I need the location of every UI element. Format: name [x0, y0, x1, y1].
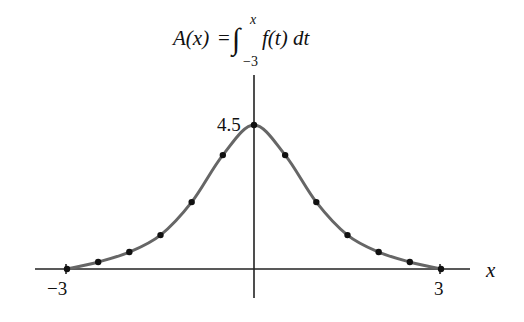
data-point [282, 152, 288, 158]
data-point [126, 249, 132, 255]
x-tick-label-3: 3 [434, 278, 444, 299]
data-point [251, 122, 257, 128]
data-point [188, 199, 194, 205]
title-lhs: A(x) [171, 26, 209, 50]
data-point [157, 232, 163, 238]
chart: A(x) = ∫ x −3 f(t) dt 4.5 −3 3 x [0, 0, 524, 322]
title-equals: = [218, 26, 230, 50]
x-tick-label-neg3: −3 [47, 278, 67, 299]
chart-title: A(x) = ∫ x −3 f(t) dt [171, 12, 310, 69]
data-point [220, 152, 226, 158]
data-point [313, 199, 319, 205]
data-point [64, 266, 70, 272]
title-lower-limit: −3 [243, 54, 258, 69]
data-point [95, 259, 101, 265]
data-point [438, 266, 444, 272]
y-tick-label-4-5: 4.5 [217, 114, 241, 135]
title-integrand: f(t) dt [262, 26, 310, 50]
data-point [344, 232, 350, 238]
integral-sign: ∫ [230, 22, 242, 58]
title-upper-limit: x [249, 12, 257, 27]
data-point [407, 259, 413, 265]
x-axis-label: x [485, 258, 496, 282]
data-point [375, 249, 381, 255]
